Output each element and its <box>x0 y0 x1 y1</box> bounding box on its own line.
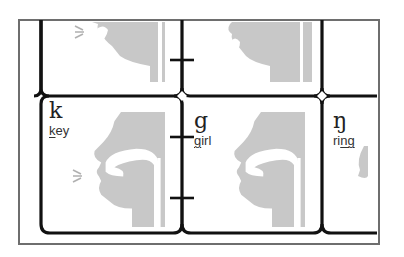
example-word: key <box>49 124 69 138</box>
airflow-icon <box>73 170 82 182</box>
cell-ng: ŋ ring <box>333 110 355 148</box>
grid-line-right-top <box>322 88 377 96</box>
airflow-icon <box>75 26 84 38</box>
diamond-junction-icon <box>317 91 327 101</box>
head-profile-ng-partial <box>358 146 368 178</box>
ipa-symbol: k <box>49 100 69 122</box>
example-word: girl <box>194 134 211 148</box>
head-profile-top-right <box>228 22 312 82</box>
i-beam-pair-connector-icon <box>170 198 194 226</box>
head-profile-k <box>94 112 165 227</box>
grid-line-ng-bottom <box>322 224 377 233</box>
head-profile-top-left <box>75 22 165 82</box>
cell-k: k key <box>49 100 69 138</box>
head-profile-g <box>234 112 305 227</box>
ipa-symbol: g <box>194 110 211 132</box>
example-word: ring <box>333 134 355 148</box>
cell-g: g girl <box>194 110 211 148</box>
diamond-junction-icon <box>177 91 187 101</box>
ipa-symbol: ŋ <box>333 110 355 132</box>
ipa-chart: k key g girl ŋ ring <box>0 0 404 257</box>
